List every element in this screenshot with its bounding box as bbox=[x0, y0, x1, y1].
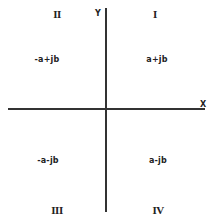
x-axis-line bbox=[8, 108, 205, 110]
quadrant-2-numeral: II bbox=[53, 9, 61, 20]
y-axis-line bbox=[105, 8, 107, 212]
quadrant-3-numeral: III bbox=[51, 205, 62, 216]
complex-plane-diagram: Y X I II III IV a+jb -a+jb -a-jb a-jb bbox=[0, 0, 212, 218]
quadrant-1-expression: a+jb bbox=[146, 56, 167, 64]
quadrant-2-expression: -a+jb bbox=[35, 56, 60, 64]
y-axis-label: Y bbox=[95, 10, 101, 18]
x-axis-label: X bbox=[200, 101, 206, 109]
quadrant-4-expression: a-jb bbox=[149, 157, 167, 165]
quadrant-3-expression: -a-jb bbox=[37, 157, 59, 165]
quadrant-4-numeral: IV bbox=[152, 205, 163, 216]
quadrant-1-numeral: I bbox=[153, 9, 157, 20]
